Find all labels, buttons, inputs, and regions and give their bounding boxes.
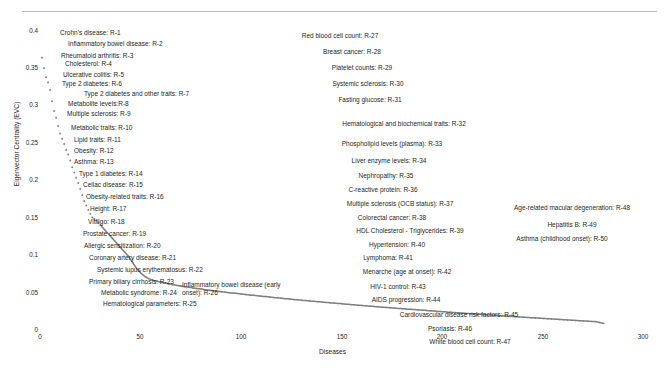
annotation-label: Red blood cell count: R-27 xyxy=(302,32,379,40)
y-tick-0: 0 xyxy=(34,326,38,333)
annotation-label: Cardiovascular disease risk factors: R-4… xyxy=(400,311,519,319)
evc-rank-plot-figure: Eigenvector Centrality (EVC) 0.4 0.35 0.… xyxy=(0,0,665,374)
y-tick-0.15: 0.15 xyxy=(26,214,38,221)
y-tick-0.1: 0.1 xyxy=(29,251,38,258)
y-tick-0.3: 0.3 xyxy=(29,101,38,108)
annotation-label: Psoriasis: R-46 xyxy=(428,325,472,333)
annotation-label: Systemic sclerosis: R-30 xyxy=(332,80,403,88)
annotation-label: Platelet counts: R-29 xyxy=(332,64,392,72)
annotation-label: C-reactive protein: R-36 xyxy=(349,186,418,194)
annotation-label: Obesity: R-12 xyxy=(74,147,114,155)
annotation-label: Multiple sclerosis: R-9 xyxy=(67,110,131,118)
annotation-label: Type 2 diabetes: R-6 xyxy=(62,80,122,88)
x-axis-title: Diseases xyxy=(0,348,665,355)
annotation-label: Hypertension: R-40 xyxy=(369,241,425,249)
annotation-label: Menarche (age at onset): R-42 xyxy=(363,268,452,276)
annotation-label: Lymphoma: R-41 xyxy=(363,254,413,262)
annotation-label: Hepatitis B: R-49 xyxy=(547,221,596,229)
annotation-label: Type 2 diabetes and other traits: R-7 xyxy=(84,90,189,98)
annotation-label: Metabolic traits: R-10 xyxy=(71,124,132,132)
annotation-label: Obesity-related traits: R-16 xyxy=(86,193,164,201)
annotation-label: Nephropathy: R-35 xyxy=(359,172,414,180)
annotation-label: Metabolite levels:R-8 xyxy=(68,100,129,108)
annotation-label: Hematological and biochemical traits: R-… xyxy=(342,120,466,128)
y-tick-0.35: 0.35 xyxy=(26,64,38,71)
annotation-label: Coronary artery disease: R-21 xyxy=(89,254,176,262)
annotation-label: HDL Cholesterol - Triglycerides: R-39 xyxy=(356,227,463,235)
annotation-label: Hematological parameters: R-25 xyxy=(103,300,197,308)
annotation-label: Primary biliary cirrhosis: R-23 xyxy=(89,278,174,286)
annotation-label: Breast cancer: R-28 xyxy=(323,48,381,56)
annotation-label: Asthma (childhood onset): R-50 xyxy=(516,235,607,243)
annotation-label: Type 1 diabetes: R-14 xyxy=(79,170,143,178)
annotation-label: Asthma: R-13 xyxy=(74,158,114,166)
annotation-label: Inflammatory bowel disease: R-2 xyxy=(68,40,163,48)
annotation-label: Multiple sclerosis (OCB status): R-37 xyxy=(347,200,454,208)
annotation-label: Height: R-17 xyxy=(90,205,127,213)
annotation-label: Age-related macular degeneration: R-48 xyxy=(514,204,630,212)
annotation-label: AIDS progression: R-44 xyxy=(372,296,441,304)
x-tick-300: 300 xyxy=(638,333,649,341)
annotation-label: Cholesterol: R-4 xyxy=(65,60,112,68)
y-axis-tick-labels: 0.4 0.35 0.3 0.25 0.2 0.15 0.1 0.05 0 xyxy=(8,30,38,330)
annotation-label: Phospholipid levels (plasma): R-33 xyxy=(342,140,442,148)
x-tick-100: 100 xyxy=(236,333,247,341)
y-tick-0.05: 0.05 xyxy=(26,289,38,296)
annotation-label: Celiac disease: R-15 xyxy=(83,181,143,189)
annotation-label: Crohn's disease: R-1 xyxy=(60,29,121,37)
x-tick-250: 250 xyxy=(538,333,549,341)
x-tick-50: 50 xyxy=(136,333,143,341)
header-divider xyxy=(22,11,657,12)
annotation-label: Fasting glucose: R-31 xyxy=(338,96,401,104)
x-tick-150: 150 xyxy=(337,333,348,341)
annotation-label: Liver enzyme levels: R-34 xyxy=(352,157,427,165)
annotation-label: White blood cell count: R-47 xyxy=(429,338,510,346)
annotation-label: Rheumatoid arthritis: R-3 xyxy=(61,52,133,60)
y-tick-0.25: 0.25 xyxy=(26,139,38,146)
x-tick-0: 0 xyxy=(38,333,42,341)
annotation-label: Prostate cancer: R-19 xyxy=(83,230,146,238)
annotation-label: Colorectal cancer: R-38 xyxy=(358,214,426,222)
annotation-label: Metabolic syndrome: R-24 xyxy=(101,289,177,297)
annotation-label: Systemic lupus erythematosus: R-22 xyxy=(97,266,203,274)
annotation-label: HIV-1 control: R-43 xyxy=(370,283,425,291)
annotation-label: Allergic sensitization: R-20 xyxy=(84,242,161,250)
x-axis-tick-labels: 0 50 100 150 200 250 300 xyxy=(40,333,644,345)
y-tick-0.2: 0.2 xyxy=(29,176,38,183)
annotation-label: Ulcerative colitis: R-5 xyxy=(63,71,124,79)
y-tick-0.4: 0.4 xyxy=(29,27,38,34)
annotation-label: Lipid traits: R-11 xyxy=(74,136,121,144)
annotation-label: Vitiligo: R-18 xyxy=(88,218,125,226)
annotation-label: Inflammatory bowel disease (early onset)… xyxy=(182,281,300,296)
